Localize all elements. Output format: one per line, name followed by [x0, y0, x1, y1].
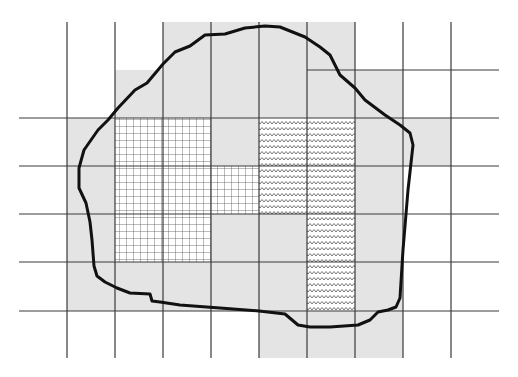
zigzag-hatch-cell	[307, 166, 355, 214]
partial-cell	[355, 166, 403, 214]
partial-cell	[67, 166, 115, 214]
partial-cell	[259, 262, 307, 311]
zigzag-hatch-cell	[259, 166, 307, 214]
zigzag-hatch-cell	[307, 214, 355, 262]
partial-cell	[307, 22, 355, 70]
grid-region-diagram	[0, 0, 518, 377]
zigzag-hatch-cell	[259, 118, 307, 166]
partial-cell	[307, 70, 355, 118]
partial-cell	[259, 214, 307, 262]
partial-cell	[355, 118, 403, 166]
partial-cell	[259, 311, 307, 358]
partial-cell	[259, 70, 307, 118]
grid-hatch-cell	[115, 214, 163, 262]
grid-hatch-cell	[163, 118, 211, 166]
partial-cell	[355, 262, 403, 311]
zigzag-hatch-cell	[307, 118, 355, 166]
partial-cell	[355, 311, 403, 358]
grid-hatch-cell	[163, 166, 211, 214]
grid-hatch-cell	[163, 214, 211, 262]
partial-cell	[211, 214, 259, 262]
partial-cell	[355, 214, 403, 262]
partial-cell	[211, 262, 259, 311]
grid-hatch-cell	[211, 166, 259, 214]
grid-hatch-cell	[115, 118, 163, 166]
partial-cell	[67, 262, 115, 311]
zigzag-hatch-cell	[307, 262, 355, 311]
partial-cell	[115, 70, 163, 118]
partial-cell	[211, 70, 259, 118]
partial-cell	[307, 311, 355, 358]
partial-cell	[163, 70, 211, 118]
grid-hatch-cell	[115, 166, 163, 214]
partial-cell	[211, 22, 259, 70]
partial-cell	[115, 262, 163, 311]
partial-cell	[211, 118, 259, 166]
